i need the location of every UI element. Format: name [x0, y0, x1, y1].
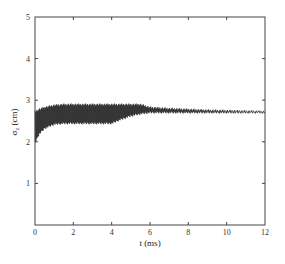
- y-tick-label: 3: [26, 96, 30, 105]
- signal-trace: [35, 104, 265, 143]
- x-tick-label: 12: [261, 228, 269, 237]
- x-tick-label: 8: [186, 228, 190, 237]
- y-tick-label: 4: [26, 55, 30, 64]
- x-tick-label: 2: [71, 228, 75, 237]
- plot-area: [35, 104, 265, 143]
- y-tick-label: 2: [26, 138, 30, 147]
- y-axis-label: σz (cm): [9, 109, 20, 136]
- y-tick-labels: 12345: [26, 13, 30, 188]
- x-axis-label: t (ms): [139, 238, 160, 248]
- y-tick-label: 1: [26, 179, 30, 188]
- x-tick-label: 0: [33, 228, 37, 237]
- x-tick-labels: 024681012: [33, 228, 269, 237]
- x-tick-label: 10: [223, 228, 231, 237]
- x-tick-label: 6: [148, 228, 152, 237]
- chart: 024681012 12345 t (ms) σz (cm): [0, 0, 285, 264]
- y-tick-label: 5: [26, 13, 30, 22]
- x-tick-label: 4: [110, 228, 114, 237]
